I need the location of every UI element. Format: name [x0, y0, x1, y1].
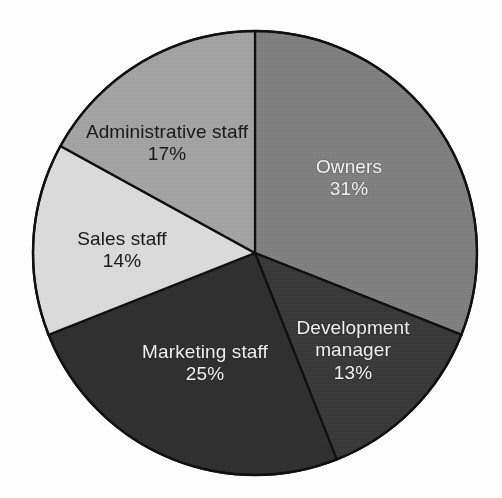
pie-label-owners: Owners31%: [316, 156, 382, 201]
pie-label-text-marketing-staff-line-1: Marketing staff: [142, 341, 268, 363]
pie-label-value-sales-staff: 14%: [77, 250, 166, 272]
pie-label-text-development-manager-line-1: Development: [296, 317, 409, 339]
pie-label-sales-staff: Sales staff14%: [77, 228, 166, 273]
pie-label-text-development-manager-line-2: manager: [296, 340, 409, 362]
pie-label-development-manager: Developmentmanager13%: [296, 317, 409, 384]
pie-label-text-administrative-staff-line-1: Administrative staff: [86, 121, 248, 143]
pie-label-value-owners: 31%: [316, 178, 382, 200]
pie-label-administrative-staff: Administrative staff17%: [86, 121, 248, 166]
pie-label-value-development-manager: 13%: [296, 362, 409, 384]
pie-label-value-marketing-staff: 25%: [142, 363, 268, 385]
pie-chart-figure: Owners31%Developmentmanager13%Marketing …: [0, 0, 502, 498]
pie-label-value-administrative-staff: 17%: [86, 143, 248, 165]
pie-label-text-owners-line-1: Owners: [316, 156, 382, 178]
pie-chart-canvas: [0, 0, 502, 498]
pie-label-marketing-staff: Marketing staff25%: [142, 341, 268, 386]
pie-label-text-sales-staff-line-1: Sales staff: [77, 228, 166, 250]
